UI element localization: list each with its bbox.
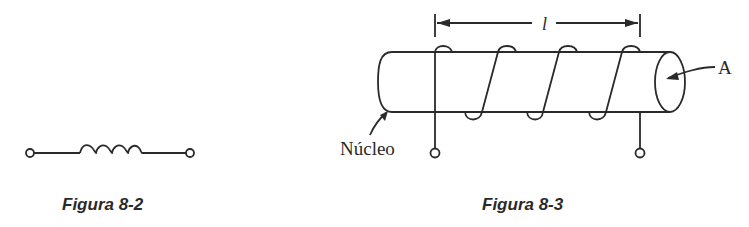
terminal-right-icon <box>186 149 194 157</box>
inductor-coil-icon <box>80 145 142 153</box>
core-arrow <box>370 111 388 135</box>
length-label: l <box>542 14 547 34</box>
figure-caption-8-2: Figura 8-2 <box>62 195 144 214</box>
arrow-icon <box>666 72 679 80</box>
length-dimension <box>435 14 640 37</box>
terminal-right-icon <box>636 149 645 158</box>
arrow-left-icon <box>437 19 450 27</box>
area-arrow <box>666 67 715 80</box>
figure-caption-8-3: Figura 8-3 <box>482 195 564 214</box>
core-label: Núcleo <box>340 138 395 159</box>
inductor-symbol <box>26 145 194 157</box>
arrow-icon <box>380 111 388 121</box>
coil-winding <box>431 46 645 158</box>
terminal-left-icon <box>431 149 440 158</box>
terminal-left-icon <box>26 149 34 157</box>
area-label: A <box>718 57 732 78</box>
figures-canvas: Figura 8-2 l <box>0 0 749 227</box>
arrow-right-icon <box>625 19 638 27</box>
core-cylinder <box>378 52 685 112</box>
